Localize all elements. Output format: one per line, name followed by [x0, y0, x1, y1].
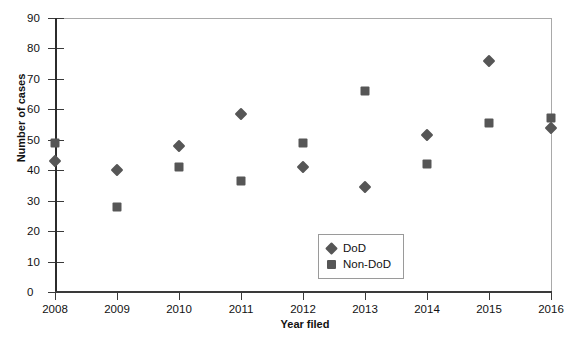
x-tick-label: 2012 — [290, 303, 316, 315]
x-tick-mark — [365, 293, 366, 300]
data-point-non-dod-2015 — [485, 119, 494, 128]
data-point-non-dod-2011 — [237, 176, 246, 185]
y-tick-label: 20 — [27, 225, 41, 237]
data-point-dod-2015 — [483, 54, 496, 67]
data-point-dod-2010 — [173, 139, 186, 152]
y-tick-mark-inner — [57, 79, 64, 80]
y-tick-mark — [48, 18, 55, 19]
y-tick-mark — [48, 292, 55, 293]
legend-label-non-dod: Non-DoD — [343, 258, 391, 270]
plot-frame-right — [551, 18, 552, 293]
y-tick-mark — [48, 201, 55, 202]
x-tick-mark — [55, 293, 56, 300]
y-tick-label: 70 — [27, 73, 41, 85]
y-tick-mark-inner — [57, 231, 64, 232]
y-tick-mark-inner — [57, 292, 64, 293]
data-point-dod-2013 — [359, 181, 372, 194]
data-point-non-dod-2016 — [547, 114, 556, 123]
x-tick-mark — [117, 293, 118, 300]
x-axis-title: Year filed — [0, 318, 582, 330]
data-point-non-dod-2012 — [299, 138, 308, 147]
y-tick-mark-inner — [57, 48, 64, 49]
legend-item-non-dod: Non-DoD — [327, 256, 391, 272]
x-tick-mark — [427, 293, 428, 300]
x-tick-mark — [241, 293, 242, 300]
y-tick-mark — [48, 48, 55, 49]
data-point-non-dod-2008 — [51, 138, 60, 147]
y-tick-label: 90 — [27, 12, 41, 24]
y-tick-mark — [48, 262, 55, 263]
y-axis-title-text: Number of cases — [15, 74, 27, 163]
y-tick-label: 40 — [27, 164, 41, 176]
y-tick-mark — [48, 231, 55, 232]
diamond-marker-icon — [325, 242, 338, 255]
x-tick-label: 2016 — [538, 303, 564, 315]
data-point-dod-2011 — [235, 108, 248, 121]
y-tick-label: 0 — [27, 286, 41, 298]
x-tick-label: 2013 — [352, 303, 378, 315]
square-marker-icon — [327, 260, 336, 269]
data-point-dod-2014 — [421, 129, 434, 142]
y-tick-label: 80 — [27, 42, 41, 54]
data-point-dod-2016 — [545, 121, 558, 134]
y-tick-mark-inner — [57, 170, 64, 171]
x-tick-mark — [551, 293, 552, 300]
y-tick-label: 10 — [27, 256, 41, 268]
data-point-dod-2008 — [49, 155, 62, 168]
data-point-non-dod-2009 — [113, 202, 122, 211]
y-tick-mark-inner — [57, 201, 64, 202]
y-tick-mark — [48, 170, 55, 171]
x-tick-label: 2011 — [229, 303, 254, 315]
legend-label-dod: DoD — [343, 242, 366, 254]
chart-legend: DoD Non-DoD — [318, 234, 404, 279]
x-tick-label: 2015 — [476, 303, 502, 315]
y-tick-mark — [48, 79, 55, 80]
y-tick-mark — [48, 109, 55, 110]
y-tick-mark-inner — [57, 109, 64, 110]
x-tick-label: 2010 — [166, 303, 192, 315]
data-point-dod-2009 — [111, 164, 124, 177]
data-point-non-dod-2013 — [361, 87, 370, 96]
x-tick-mark — [303, 293, 304, 300]
legend-item-dod: DoD — [327, 240, 391, 256]
plot-frame-top — [55, 18, 552, 19]
data-point-dod-2012 — [297, 161, 310, 174]
y-tick-mark-inner — [57, 18, 64, 19]
y-tick-label: 50 — [27, 134, 41, 146]
x-axis-title-text: Year filed — [253, 318, 330, 330]
x-tick-mark — [179, 293, 180, 300]
x-tick-label: 2008 — [42, 303, 68, 315]
data-point-non-dod-2010 — [175, 163, 184, 172]
y-tick-label: 30 — [27, 195, 41, 207]
plot-area: 0102030405060708090 20082009201020112012… — [55, 18, 551, 292]
y-tick-mark-inner — [57, 262, 64, 263]
data-point-non-dod-2014 — [423, 160, 432, 169]
x-tick-label: 2014 — [414, 303, 440, 315]
x-tick-label: 2009 — [104, 303, 130, 315]
x-tick-mark — [489, 293, 490, 300]
y-tick-label: 60 — [27, 103, 41, 115]
scatter-chart-figure: Number of cases 0102030405060708090 2008… — [0, 0, 582, 342]
